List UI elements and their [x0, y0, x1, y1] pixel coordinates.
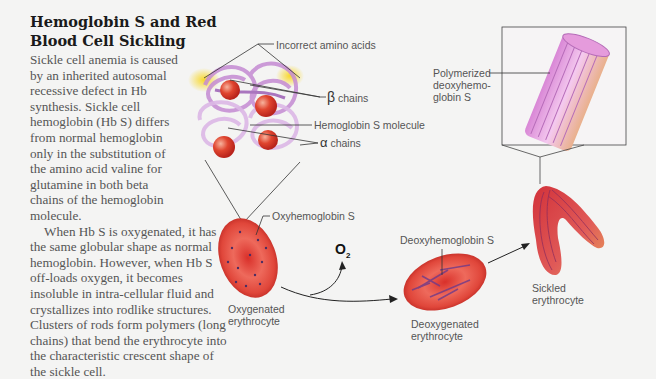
label-o2: O2 — [335, 243, 350, 262]
heme-group — [255, 95, 277, 117]
label-line: Sickled — [532, 282, 584, 294]
label-alpha-chains: α chains — [320, 137, 361, 149]
polymer-closeup-illustration — [489, 27, 626, 184]
label-deoxygenated-erythrocyte: Deoxygenatederythrocyte — [411, 318, 479, 342]
label-line: erythrocyte — [411, 330, 479, 342]
heme-group — [213, 136, 235, 158]
alpha-symbol: α — [320, 135, 328, 150]
label-beta-chains: β chains — [327, 91, 368, 104]
alpha-chains-text: chains — [330, 137, 360, 149]
beta-symbol: β — [327, 89, 335, 105]
label-oxygenated-erythrocyte: Oxygenatederythrocyte — [228, 303, 285, 327]
heme-group — [220, 80, 240, 100]
label-line: erythrocyte — [228, 315, 285, 327]
label-line: Oxygenated — [228, 303, 285, 315]
label-sickled-erythrocyte: Sicklederythrocyte — [532, 282, 584, 306]
label-line: globin S — [433, 91, 491, 103]
heme-group — [258, 130, 278, 150]
oxygenated-erythrocyte-illustration — [208, 210, 289, 306]
beta-chains-text: chains — [338, 92, 368, 104]
hemoglobin-molecule-illustration — [188, 64, 304, 158]
label-line: erythrocyte — [532, 294, 584, 306]
label-incorrect-amino-acids: Incorrect amino acids — [276, 39, 376, 51]
label-line: Deoxygenated — [411, 318, 479, 330]
label-line: deoxyhemo- — [433, 79, 491, 91]
label-hemoglobin-s-molecule: Hemoglobin S molecule — [314, 119, 425, 131]
sickled-erythrocyte-illustration — [533, 186, 604, 275]
o2-subscript: 2 — [346, 251, 350, 260]
label-deoxyhemoglobin-s: Deoxyhemoglobin S — [400, 234, 494, 246]
label-polymerized-deoxyhemoglobin-s: Polymerizeddeoxyhemo-globin S — [433, 67, 491, 103]
o2-main: O — [335, 241, 346, 257]
label-oxyhemoglobin-s: Oxyhemoglobin S — [272, 210, 355, 222]
deoxygenated-erythrocyte-illustration — [396, 243, 495, 321]
label-line: Polymerized — [433, 67, 491, 79]
